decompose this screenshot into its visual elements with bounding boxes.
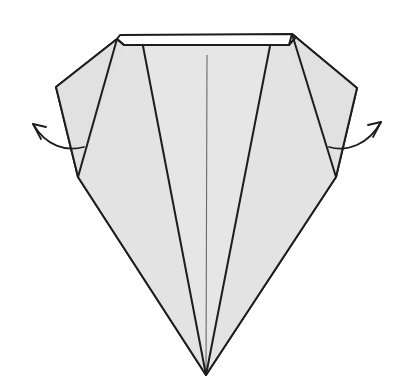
origami-diagram-canvas xyxy=(0,0,406,382)
origami-figure xyxy=(0,0,406,382)
right-fold-arrow-head-icon xyxy=(368,122,381,137)
top-folded-edge-band xyxy=(117,34,296,45)
